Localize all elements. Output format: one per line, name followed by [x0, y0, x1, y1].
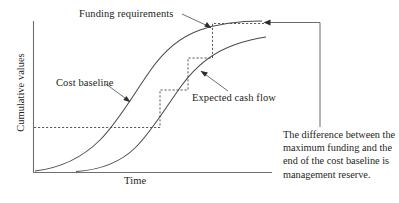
label-cost-baseline: Cost baseline — [56, 77, 114, 89]
arrowhead-management-reserve — [264, 19, 271, 25]
label-funding-requirements: Funding requirements — [79, 8, 173, 20]
label-expected-cash-flow: Expected cash flow — [192, 92, 276, 104]
arrowhead-funding-requirements — [204, 22, 211, 28]
arrowhead-cost-baseline — [123, 96, 130, 102]
step-funding-requirements — [34, 24, 264, 128]
x-axis-label: Time — [124, 175, 146, 187]
callout-rule-management-reserve — [268, 23, 320, 128]
figure-container: Funding requirements Cost baseline Expec… — [0, 0, 399, 203]
y-axis-label: Cumulative values — [15, 34, 26, 152]
curve-expected-cash-flow — [76, 37, 266, 172]
annotation-management-reserve: The difference between the maximum fundi… — [283, 128, 397, 181]
